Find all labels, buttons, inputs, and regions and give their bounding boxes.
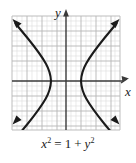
equation-equals-sign: = <box>52 136 65 151</box>
equation-plus-sign: + <box>71 136 84 151</box>
x-axis-label: x <box>124 84 131 99</box>
y-axis-label: y <box>53 5 61 20</box>
equation-rhs-exponent: 2 <box>90 136 94 145</box>
equation-caption: x2 = 1 + y2 <box>0 136 136 152</box>
